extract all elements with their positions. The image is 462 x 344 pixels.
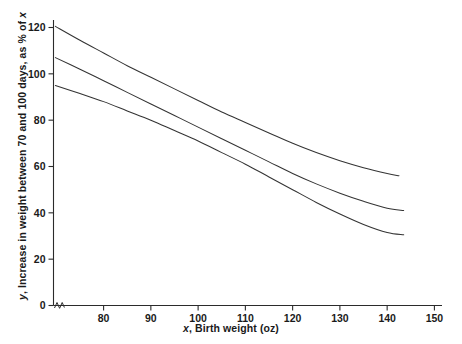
y-tick-label: 120 bbox=[28, 21, 46, 33]
y-tick-label: 100 bbox=[28, 68, 46, 80]
series-line-fitted-regression-curve bbox=[55, 58, 403, 211]
tick-labels-group: 0204060801001208090100110120130140150 bbox=[28, 21, 443, 324]
y-tick-label: 60 bbox=[34, 160, 46, 172]
tick-marks-group bbox=[49, 28, 435, 311]
x-axis-label: x, Birth weight (oz) bbox=[0, 322, 462, 334]
chart-plot-area: 0204060801001208090100110120130140150 bbox=[0, 0, 462, 344]
series-line-upper-confidence-curve bbox=[55, 26, 399, 175]
series-line-lower-confidence-curve bbox=[55, 85, 403, 234]
x-axis-label-text: , Birth weight (oz) bbox=[189, 322, 279, 334]
y-axis-label-variable: y bbox=[16, 294, 28, 300]
y-axis-label: y, Increase in weight between 70 and 100… bbox=[16, 6, 28, 306]
y-axis-label-text: , Increase in weight between 70 and 100 … bbox=[16, 18, 28, 294]
y-tick-label: 40 bbox=[34, 207, 46, 219]
y-tick-label: 20 bbox=[34, 253, 46, 265]
figure-container: 0204060801001208090100110120130140150 y,… bbox=[0, 0, 462, 344]
y-tick-label: 0 bbox=[40, 299, 46, 311]
y-tick-label: 80 bbox=[34, 114, 46, 126]
axes-group bbox=[54, 20, 443, 305]
y-axis-label-variable-suffix: x bbox=[16, 12, 28, 18]
data-series-group bbox=[55, 26, 403, 235]
